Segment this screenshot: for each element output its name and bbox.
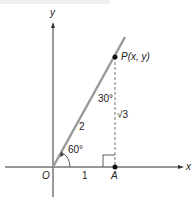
point-a [113, 165, 118, 170]
op-length-label: 2 [79, 122, 85, 132]
oa-length-label: 1 [82, 171, 88, 181]
x-axis-arrow-icon [178, 165, 184, 169]
y-axis-label: y [50, 8, 55, 18]
y-axis-arrow-icon [51, 22, 55, 28]
angle-30-label: 30° [98, 94, 113, 104]
point-p-label: P(x, y) [121, 52, 150, 62]
pa-length-label: √3 [117, 110, 128, 120]
right-angle-marker [103, 155, 115, 167]
angle-60-label: 60° [68, 145, 83, 155]
x-axis-label: x [186, 162, 191, 172]
point-a-label: A [111, 171, 118, 181]
point-p [113, 55, 118, 60]
origin-label: O [42, 171, 50, 181]
diagram-canvas [0, 0, 192, 200]
